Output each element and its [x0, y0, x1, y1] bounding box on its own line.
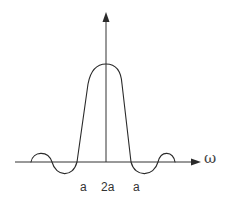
tick-label-right-a: a — [133, 181, 140, 193]
omega-axis-label: ω — [204, 151, 216, 166]
tick-label-left-a: a — [80, 181, 87, 193]
vertical-axis-arrow-icon — [103, 12, 110, 22]
spectrum-curve — [31, 64, 175, 174]
horizontal-axis-arrow-icon — [191, 159, 201, 166]
tick-label-center-2a: 2a — [101, 181, 114, 193]
spectrum-diagram: ω a 2a a — [0, 0, 225, 206]
